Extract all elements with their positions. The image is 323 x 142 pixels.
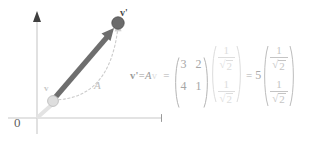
input-entry-0-denominator: √ 2 — [218, 58, 236, 72]
input-vector-right-paren — [236, 45, 243, 105]
eigenvalue: 5 — [255, 68, 261, 83]
v-prime-label: v' — [120, 8, 128, 18]
input-entry-0-numerator: 1 — [222, 45, 232, 57]
result-entry-1-denominator: √ 2 — [270, 92, 288, 106]
matrix-a-left-paren — [173, 57, 180, 94]
input-vector-entry-0: 1 √ 2 — [218, 45, 236, 72]
result-vector: 1 √ 2 1 √ 2 — [262, 45, 296, 105]
input-entry-1-numerator: 1 — [222, 79, 232, 91]
lhs-vector-v: v — [152, 70, 158, 81]
input-vector: 1 √ 2 1 √ 2 — [210, 45, 244, 105]
result-vector-left-paren — [262, 45, 269, 105]
input-entry-0-sqrt: √ 2 — [220, 59, 234, 72]
operator-a-label: A — [94, 80, 101, 91]
origin-label: 0 — [14, 116, 21, 129]
result-entry-0-radicand: 2 — [278, 60, 286, 72]
matrix-a-right-paren — [203, 57, 210, 94]
x-axis-arrowhead — [161, 114, 162, 122]
input-entry-1-sqrt: √ 2 — [220, 93, 234, 106]
y-axis-arrowhead — [33, 11, 41, 22]
matrix-a-grid: 3 2 4 1 — [181, 57, 202, 94]
result-vector-right-paren — [289, 45, 296, 105]
matrix-a-cell-1-0: 4 — [181, 79, 187, 94]
result-entry-1-radicand: 2 — [278, 93, 286, 105]
result-entry-0-denominator: √ 2 — [270, 58, 288, 72]
lhs-v-prime: v' — [130, 70, 139, 81]
input-vector-left-paren — [210, 45, 217, 105]
result-entry-0-numerator: 1 — [274, 45, 284, 57]
equals-sign-3: = — [246, 69, 252, 81]
input-entry-1-radicand: 2 — [226, 93, 234, 105]
result-vector-entries: 1 √ 2 1 √ 2 — [270, 45, 288, 105]
lhs-operator: A — [145, 70, 152, 81]
matrix-a-cell-1-1: 1 — [196, 79, 202, 94]
vprime-dot — [112, 17, 124, 29]
v-label: v — [44, 84, 49, 93]
equals-sign-2: = — [163, 69, 169, 81]
matrix-equation: v'=Av = 3 2 4 1 1 — [130, 44, 296, 106]
input-vector-entry-1: 1 √ 2 — [218, 79, 236, 106]
result-vector-entry-0: 1 √ 2 — [270, 45, 288, 72]
matrix-a-cell-0-1: 2 — [196, 57, 202, 72]
input-entry-0-radicand: 2 — [226, 60, 234, 72]
input-vector-entries: 1 √ 2 1 √ 2 — [218, 45, 236, 105]
matrix-a: 3 2 4 1 — [173, 57, 210, 94]
input-entry-1-denominator: √ 2 — [218, 92, 236, 106]
equation-lhs: v'=Av — [130, 70, 157, 81]
result-entry-1-sqrt: √ 2 — [272, 93, 286, 106]
result-vector-entry-1: 1 √ 2 — [270, 79, 288, 106]
result-entry-1-numerator: 1 — [274, 79, 284, 91]
matrix-a-cell-0-0: 3 — [181, 57, 187, 72]
result-entry-0-sqrt: √ 2 — [272, 59, 286, 72]
v-dot — [48, 96, 59, 107]
eigenvector-figure: 0 v v' A v'=Av = 3 2 4 1 — [0, 0, 323, 142]
